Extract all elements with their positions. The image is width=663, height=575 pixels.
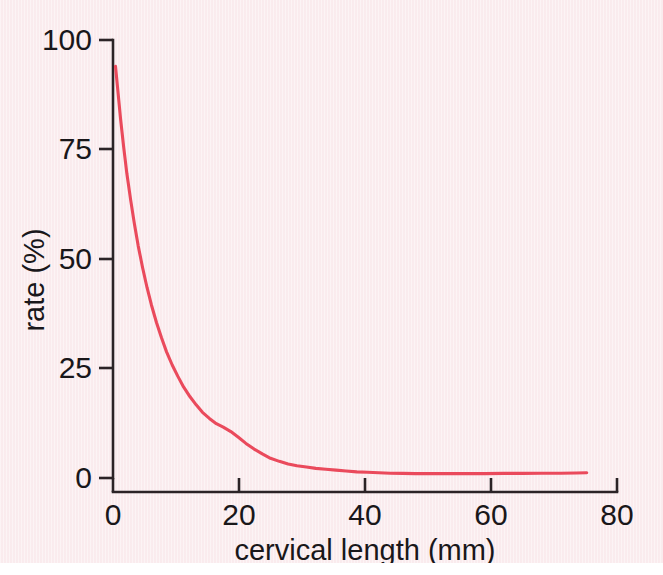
y-tick-label-75: 75 [59,132,92,165]
x-axis-title: cervical length (mm) [234,534,495,566]
y-tick-label-25: 25 [59,351,92,384]
y-axis-title: rate (%) [18,228,50,331]
x-tick-label-40: 40 [348,498,381,531]
x-tick-label-20: 20 [222,498,255,531]
y-axis-ticks [99,40,113,478]
x-tick-label-0: 0 [105,498,122,531]
y-tick-label-0: 0 [75,461,92,494]
x-axis-ticks [113,478,617,492]
x-tick-label-60: 60 [474,498,507,531]
chart-figure: 100 75 50 25 0 0 20 40 60 80 cervical le… [0,0,663,575]
page-margin-strip [0,563,663,575]
chart-plot-area: 100 75 50 25 0 0 20 40 60 80 cervical le… [0,0,663,575]
data-series-rate [116,66,587,473]
y-tick-label-50: 50 [59,242,92,275]
y-tick-label-100: 100 [42,23,92,56]
x-tick-label-80: 80 [600,498,633,531]
